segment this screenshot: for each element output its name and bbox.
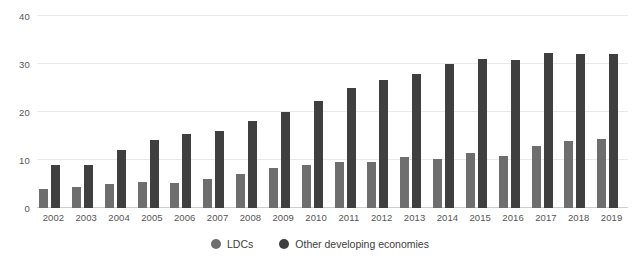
bar-other-developing-economies <box>544 53 553 208</box>
bar-ldcs <box>499 156 508 208</box>
bar-group <box>201 16 234 208</box>
bar-group <box>530 16 563 208</box>
x-tick-label: 2012 <box>365 212 398 223</box>
x-tick-label: 2008 <box>234 212 267 223</box>
circle-icon <box>211 239 221 249</box>
bar-chart: 010203040 200220032004200520062007200820… <box>0 0 640 268</box>
x-tick-label: 2019 <box>595 212 628 223</box>
circle-icon <box>279 239 289 249</box>
x-tick-label: 2013 <box>398 212 431 223</box>
bar-ldcs <box>335 162 344 208</box>
bar-ldcs <box>302 165 311 208</box>
bar-ldcs <box>597 139 606 208</box>
x-tick-label: 2009 <box>267 212 300 223</box>
bar-ldcs <box>39 189 48 208</box>
bar-group <box>398 16 431 208</box>
y-tick-label: 10 <box>19 155 30 166</box>
y-tick-label: 20 <box>19 107 30 118</box>
x-tick-label: 2018 <box>562 212 595 223</box>
bar-other-developing-economies <box>478 59 487 208</box>
bar-ldcs <box>105 184 114 208</box>
bar-group <box>168 16 201 208</box>
bar-other-developing-economies <box>511 60 520 208</box>
bar-other-developing-economies <box>84 165 93 208</box>
bar-other-developing-economies <box>215 131 224 208</box>
bar-other-developing-economies <box>609 54 618 208</box>
y-tick-label: 30 <box>19 59 30 70</box>
bar-ldcs <box>170 183 179 208</box>
x-tick-label: 2017 <box>530 212 563 223</box>
x-tick-label: 2011 <box>333 212 366 223</box>
y-axis-labels: 010203040 <box>0 0 37 268</box>
x-tick-label: 2014 <box>431 212 464 223</box>
bar-group <box>70 16 103 208</box>
legend-label: LDCs <box>227 238 253 250</box>
bar-other-developing-economies <box>314 101 323 208</box>
x-tick-label: 2010 <box>300 212 333 223</box>
bar-other-developing-economies <box>379 80 388 208</box>
x-tick-label: 2016 <box>497 212 530 223</box>
x-tick-label: 2007 <box>201 212 234 223</box>
bar-ldcs <box>367 162 376 208</box>
bar-other-developing-economies <box>445 64 454 208</box>
bar-group <box>37 16 70 208</box>
bar-group <box>103 16 136 208</box>
bar-other-developing-economies <box>576 54 585 208</box>
y-tick-label: 0 <box>25 203 30 214</box>
bar-ldcs <box>236 174 245 208</box>
bar-group <box>300 16 333 208</box>
legend-label: Other developing economies <box>295 238 429 250</box>
bar-group <box>365 16 398 208</box>
bar-group <box>431 16 464 208</box>
bar-other-developing-economies <box>412 74 421 208</box>
bar-other-developing-economies <box>347 88 356 208</box>
legend-item[interactable]: Other developing economies <box>279 238 429 250</box>
bar-ldcs <box>433 159 442 208</box>
bar-ldcs <box>269 168 278 208</box>
bar-ldcs <box>203 179 212 208</box>
chart-legend: LDCsOther developing economies <box>0 238 640 250</box>
x-tick-label: 2015 <box>464 212 497 223</box>
bars-layer <box>37 16 628 208</box>
bar-other-developing-economies <box>281 112 290 208</box>
legend-item[interactable]: LDCs <box>211 238 253 250</box>
bar-group <box>234 16 267 208</box>
bar-group <box>464 16 497 208</box>
bar-other-developing-economies <box>117 150 126 208</box>
x-axis-labels: 2002200320042005200620072008200920102011… <box>37 212 628 228</box>
y-tick-label: 40 <box>19 11 30 22</box>
bar-group <box>497 16 530 208</box>
bar-group <box>595 16 628 208</box>
x-tick-label: 2003 <box>70 212 103 223</box>
x-tick-label: 2002 <box>37 212 70 223</box>
bar-group <box>333 16 366 208</box>
bar-group <box>136 16 169 208</box>
bar-ldcs <box>466 153 475 208</box>
bar-group <box>562 16 595 208</box>
x-tick-label: 2005 <box>136 212 169 223</box>
bar-other-developing-economies <box>182 134 191 208</box>
bar-other-developing-economies <box>51 165 60 208</box>
bar-ldcs <box>72 187 81 208</box>
bar-ldcs <box>138 182 147 208</box>
x-tick-label: 2004 <box>103 212 136 223</box>
bar-group <box>267 16 300 208</box>
plot-area <box>37 16 628 208</box>
bar-other-developing-economies <box>150 140 159 208</box>
x-tick-label: 2006 <box>168 212 201 223</box>
bar-other-developing-economies <box>248 121 257 208</box>
bar-ldcs <box>400 157 409 208</box>
bar-ldcs <box>532 146 541 208</box>
bar-ldcs <box>564 141 573 208</box>
